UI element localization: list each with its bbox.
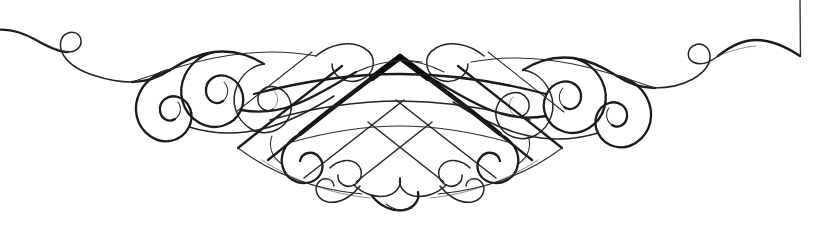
bottom-fringe: [238, 134, 562, 210]
central-lattice: [236, 44, 564, 182]
left-tail: [0, 29, 132, 82]
flourish-artwork: Calligraphic Flourish Ornament Symmetric…: [0, 0, 831, 240]
right-tail: [655, 40, 800, 88]
left-scroll-cluster: [132, 52, 356, 142]
page-border-rule: [800, 0, 801, 56]
ornament-page: Calligraphic Flourish Ornament Symmetric…: [0, 0, 831, 240]
